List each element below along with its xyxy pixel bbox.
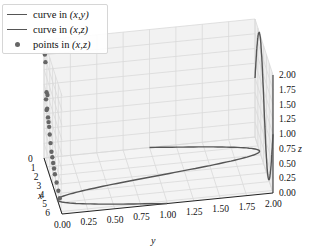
x-axis-label: x	[37, 190, 43, 201]
z-tick-label: 1.00	[279, 129, 296, 139]
legend-coords: (x,z)	[72, 39, 90, 50]
legend-item-curve-xz: curve in (x,z)	[7, 22, 88, 36]
legend-label: points in	[33, 39, 69, 50]
y-tick-label: 2.00	[265, 199, 282, 209]
z-tick-label: 1.50	[279, 100, 296, 110]
legend-coords: (x,z)	[70, 24, 88, 35]
z-tick-label: 1.75	[279, 85, 296, 95]
legend-label: curve in	[33, 24, 67, 35]
dot-swatch-icon	[7, 42, 27, 47]
z-tick-label: 0.25	[279, 173, 296, 183]
y-tick-label: 1.75	[239, 202, 256, 212]
y-tick-label: 0.50	[107, 215, 124, 225]
y-tick-label: 0.75	[133, 212, 150, 222]
y-tick-label: 1.00	[160, 210, 177, 220]
y-tick-label: 0.00	[54, 220, 71, 230]
line-swatch-icon	[7, 14, 27, 15]
legend-item-points-xz: points in (x,z)	[7, 37, 90, 51]
line-swatch-icon	[7, 29, 27, 30]
z-tick-label: 1.25	[279, 114, 296, 124]
legend-item-curve-xy: curve in (x,y)	[7, 7, 89, 21]
z-tick-label: 0.75	[279, 144, 296, 154]
legend-coords: (x,y)	[70, 9, 89, 20]
x-tick-label: 6	[45, 208, 50, 218]
y-tick-label: 1.25	[186, 207, 203, 217]
z-tick-label: 0.00	[279, 188, 296, 198]
legend-label: curve in	[33, 9, 67, 20]
z-tick-label: 0.50	[279, 159, 296, 169]
legend: curve in (x,y) curve in (x,z) points in …	[2, 4, 108, 54]
y-axis-label: y	[150, 235, 156, 246]
z-tick-label: 2.00	[279, 70, 296, 80]
y-tick-label: 1.50	[212, 204, 229, 214]
z-axis-label: z	[297, 143, 302, 154]
y-tick-label: 0.25	[80, 217, 97, 227]
